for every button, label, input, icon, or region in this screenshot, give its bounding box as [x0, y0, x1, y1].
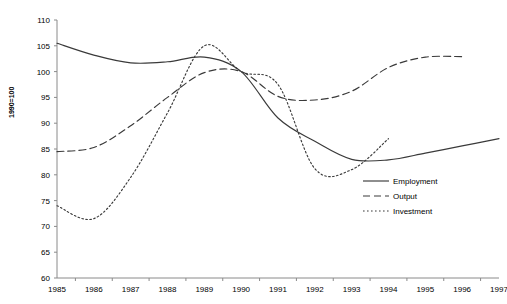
x-tick-label: 1988: [159, 285, 177, 294]
x-tick-label: 1986: [85, 285, 103, 294]
x-tick-label: 1985: [48, 285, 66, 294]
y-tick-label: 110: [37, 16, 50, 25]
y-tick-label: 70: [41, 222, 50, 231]
x-tick-label: 1997: [490, 285, 507, 294]
x-tick-label: 1989: [195, 285, 213, 294]
y-tick-label: 85: [41, 145, 50, 154]
legend-label-output: Output: [393, 192, 418, 201]
x-tick-label: 1993: [343, 285, 361, 294]
x-tick-label: 1996: [453, 285, 471, 294]
series-line-output: [57, 56, 462, 151]
series-group: [57, 43, 499, 219]
chart-plot-area: 6065707580859095100105110 19851986198719…: [0, 0, 507, 304]
y-tick-label: 100: [37, 68, 51, 77]
series-line-investment: [57, 45, 389, 220]
y-tick-label: 60: [41, 274, 50, 283]
y-axis-tick-group: 6065707580859095100105110: [37, 16, 57, 283]
x-tick-label: 1991: [269, 285, 287, 294]
x-tick-label: 1994: [380, 285, 398, 294]
y-tick-label: 80: [41, 171, 50, 180]
x-axis-tick-group: 1985198619871988198919901991199219931994…: [48, 278, 507, 294]
chart-legend: EmploymentOutputInvestment: [363, 177, 438, 216]
legend-label-investment: Investment: [393, 207, 433, 216]
y-tick-label: 90: [41, 119, 50, 128]
series-line-employment: [57, 43, 499, 161]
chart-container: 1990=100 6065707580859095100105110 19851…: [0, 0, 507, 304]
x-tick-label: 1995: [416, 285, 434, 294]
y-tick-label: 105: [37, 42, 51, 51]
legend-label-employment: Employment: [393, 177, 438, 186]
x-tick-label: 1990: [232, 285, 250, 294]
y-tick-label: 75: [41, 197, 50, 206]
x-tick-label: 1987: [122, 285, 140, 294]
x-tick-label: 1992: [306, 285, 324, 294]
y-tick-label: 65: [41, 248, 50, 257]
y-tick-label: 95: [41, 93, 50, 102]
